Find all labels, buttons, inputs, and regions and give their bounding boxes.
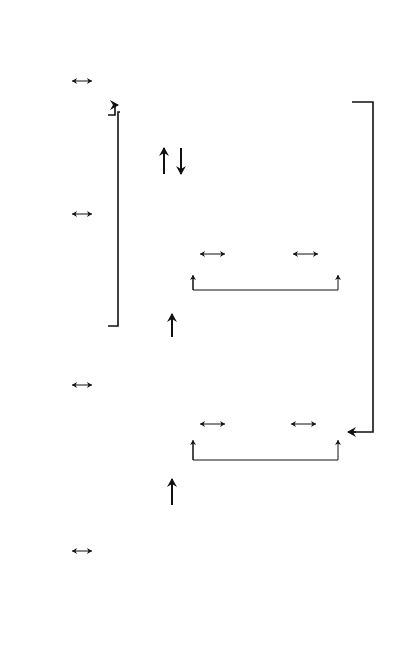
connector-lines [0, 0, 417, 672]
relationship-development-diagram [0, 0, 417, 672]
